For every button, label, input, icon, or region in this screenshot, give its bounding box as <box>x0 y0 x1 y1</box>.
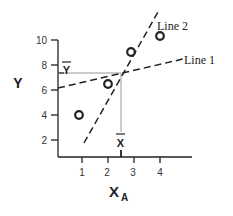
x-tick-label: 4 <box>157 167 163 178</box>
data-point <box>104 80 112 88</box>
y-mean-text: Y <box>63 64 71 76</box>
x-mean-label: X <box>116 134 125 149</box>
x-axis-title-main: X <box>109 183 119 200</box>
data-point <box>127 48 135 56</box>
line-2-label: Line 2 <box>157 19 188 33</box>
x-tick-label: 1 <box>79 167 85 178</box>
y-tick-label: 6 <box>41 85 47 96</box>
x-tick-label: 2 <box>104 167 110 178</box>
y-tick-label: 10 <box>36 35 48 46</box>
x-tick-label: 3 <box>130 167 136 178</box>
x-axis-title-sub: A <box>121 192 128 203</box>
line-1-label: Line 1 <box>184 53 215 67</box>
y-tick-label: 2 <box>41 135 47 146</box>
y-mean-label: Y <box>62 62 71 76</box>
data-points <box>75 32 164 119</box>
regression-chart: 10 8 6 4 2 1 2 3 4 Y X Line 2 Line 1 Y X… <box>0 0 233 216</box>
x-axis-title: X A <box>109 183 128 203</box>
data-point <box>75 111 83 119</box>
data-point <box>156 32 164 40</box>
y-axis-title: Y <box>13 75 23 91</box>
x-mean-text: X <box>117 137 125 149</box>
y-tick-label: 4 <box>41 110 47 121</box>
y-tick-label: 8 <box>41 60 47 71</box>
